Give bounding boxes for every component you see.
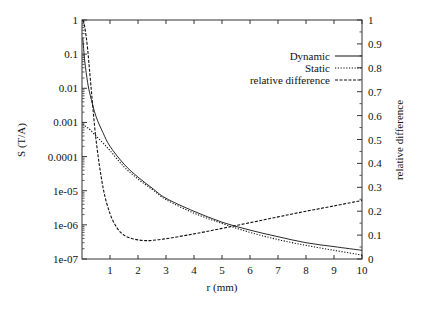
y2-axis-ticks: 10.90.80.70.60.50.40.30.20.10 (357, 14, 382, 265)
y2-tick-label: 0 (368, 253, 374, 265)
x-tick-label: 5 (219, 264, 225, 276)
x-tick-label: 3 (163, 264, 169, 276)
y2-tick-label: 0.4 (368, 157, 382, 169)
x-tick-label: 2 (135, 264, 141, 276)
y2-tick-label: 0.9 (368, 38, 382, 50)
x-tick-label: 7 (275, 264, 281, 276)
x-axis-title: r (mm) (207, 281, 238, 294)
y-tick-label: 1e-05 (53, 185, 79, 197)
x-tick-label: 10 (357, 264, 369, 276)
y2-tick-label: 0.8 (368, 62, 382, 74)
x-tick-label: 1 (107, 264, 113, 276)
y-tick-label: 0.1 (64, 48, 78, 60)
y2-tick-label: 0.2 (368, 205, 382, 217)
x-tick-label: 4 (191, 264, 197, 276)
legend-label: Static (305, 62, 330, 74)
y2-tick-label: 1 (368, 14, 374, 26)
x-tick-label: 8 (303, 264, 309, 276)
legend-label: Dynamic (290, 50, 330, 62)
y2-tick-label: 0.7 (368, 86, 382, 98)
y-tick-label: 0.0001 (48, 151, 78, 163)
y-tick-label: 1 (73, 14, 79, 26)
y2-tick-label: 0.3 (368, 181, 382, 193)
legend: DynamicStaticrelative difference (250, 50, 362, 86)
x-tick-label: 6 (247, 264, 253, 276)
y2-tick-label: 0.6 (368, 110, 382, 122)
chart: 12345678910 10.10.010.0010.00011e-051e-0… (0, 0, 424, 309)
y-axis-ticks: 10.10.010.0010.00011e-051e-061e-07 (48, 14, 87, 265)
y-axis-title: S (T/A) (15, 123, 28, 157)
legend-label: relative difference (250, 74, 330, 86)
y2-axis-title: relative difference (393, 100, 405, 180)
y2-tick-label: 0.5 (368, 134, 382, 146)
y-tick-label: 1e-07 (53, 253, 79, 265)
x-tick-label: 9 (331, 264, 337, 276)
y2-tick-label: 0.1 (368, 229, 382, 241)
y-tick-label: 1e-06 (53, 219, 79, 231)
y-tick-label: 0.01 (59, 82, 78, 94)
y-tick-label: 0.001 (53, 116, 78, 128)
